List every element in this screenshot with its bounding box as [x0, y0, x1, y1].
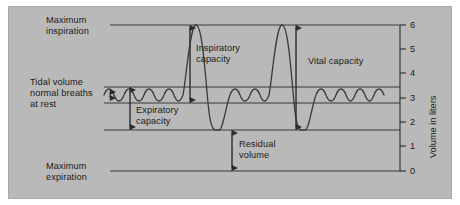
- y-axis-label-1: 1: [410, 141, 415, 151]
- y-axis-tick-labels: 6 5 4 3 2 1 0: [410, 20, 415, 176]
- label-maximum-expiration: Maximum expiration: [46, 161, 87, 182]
- y-axis-ticks: [400, 25, 406, 171]
- label-inspiratory-capacity-line2: capacity: [196, 54, 231, 64]
- label-maximum-inspiration: Maximum inspiration: [46, 15, 89, 36]
- spirogram-figure: Maximum inspiration Tidal volume normal …: [0, 0, 460, 205]
- label-expiratory-capacity-line1: Expiratory: [136, 105, 179, 115]
- label-maximum-expiration-line2: expiration: [46, 172, 87, 182]
- label-inspiratory-capacity: Inspiratory capacity: [196, 43, 240, 64]
- y-axis-label-0: 0: [410, 166, 415, 176]
- y-axis-label-6: 6: [410, 20, 415, 30]
- label-inspiratory-capacity-line1: Inspiratory: [196, 43, 240, 53]
- label-tidal-volume: Tidal volume normal breaths at rest: [30, 77, 93, 109]
- label-residual-volume: Residual volume: [239, 139, 276, 160]
- label-maximum-inspiration-line1: Maximum: [46, 15, 87, 25]
- label-vital-capacity-line1: Vital capacity: [308, 56, 364, 66]
- label-expiratory-capacity: Expiratory capacity: [136, 105, 179, 126]
- label-tidal-volume-line3: at rest: [30, 99, 57, 109]
- label-maximum-expiration-line1: Maximum: [46, 161, 87, 171]
- spirogram-canvas: Maximum inspiration Tidal volume normal …: [0, 0, 460, 205]
- label-expiratory-capacity-line2: capacity: [136, 116, 171, 126]
- label-tidal-volume-line1: Tidal volume: [30, 77, 83, 87]
- y-axis-label-4: 4: [410, 68, 415, 78]
- y-axis-label-2: 2: [410, 117, 415, 127]
- y-axis-title: Volume in liters: [428, 95, 438, 158]
- label-residual-volume-line2: volume: [239, 150, 269, 160]
- label-vital-capacity: Vital capacity: [308, 56, 364, 66]
- y-axis-label-5: 5: [410, 44, 415, 54]
- y-axis-label-3: 3: [410, 93, 415, 103]
- label-residual-volume-line1: Residual: [239, 139, 276, 149]
- label-maximum-inspiration-line2: inspiration: [46, 26, 89, 36]
- label-tidal-volume-line2: normal breaths: [30, 88, 93, 98]
